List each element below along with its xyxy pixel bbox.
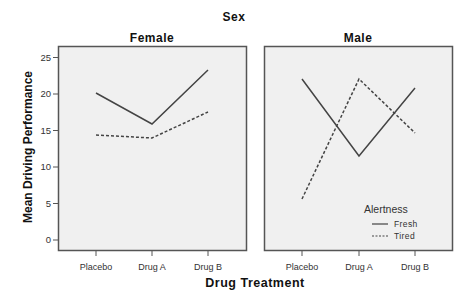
panel-female [59, 47, 247, 251]
y-ticks [53, 58, 58, 241]
legend-title: Alertness [364, 203, 408, 215]
panel-male [265, 47, 453, 251]
plot-area [0, 0, 468, 305]
legend-label-tired: Tired [394, 231, 415, 241]
x-ticks [96, 251, 415, 256]
legend-label-fresh: Fresh [394, 219, 418, 229]
